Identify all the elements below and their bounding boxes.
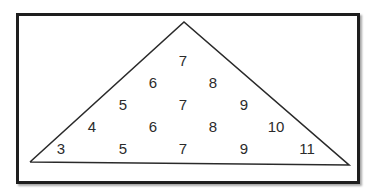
number-cell: 6 — [149, 119, 157, 134]
number-cell: 6 — [149, 75, 157, 90]
number-cell: 7 — [179, 53, 187, 68]
triangle-outline — [0, 0, 372, 189]
number-cell: 9 — [240, 141, 248, 156]
number-cell: 3 — [57, 141, 65, 156]
number-cell: 7 — [179, 97, 187, 112]
number-cell: 10 — [268, 119, 285, 134]
number-cell: 8 — [209, 75, 217, 90]
number-cell: 9 — [240, 97, 248, 112]
number-cell: 5 — [119, 97, 127, 112]
number-cell: 4 — [88, 119, 96, 134]
number-cell: 5 — [119, 141, 127, 156]
number-cell: 11 — [299, 141, 315, 156]
number-cell: 7 — [179, 141, 187, 156]
number-cell: 8 — [209, 119, 217, 134]
